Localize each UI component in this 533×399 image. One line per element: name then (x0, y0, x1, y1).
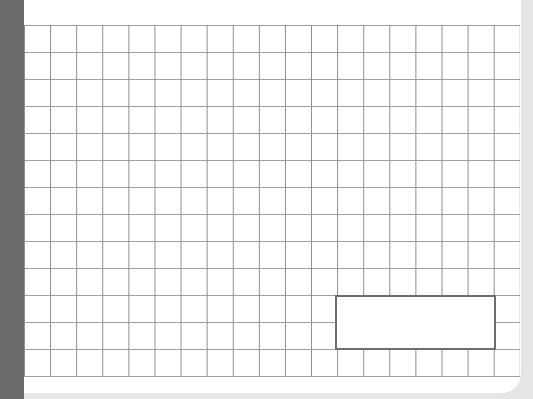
left-binding-bar (0, 0, 24, 399)
right-edge-strip (521, 0, 533, 399)
highlight-box (335, 295, 496, 350)
bottom-edge-strip (24, 393, 533, 399)
